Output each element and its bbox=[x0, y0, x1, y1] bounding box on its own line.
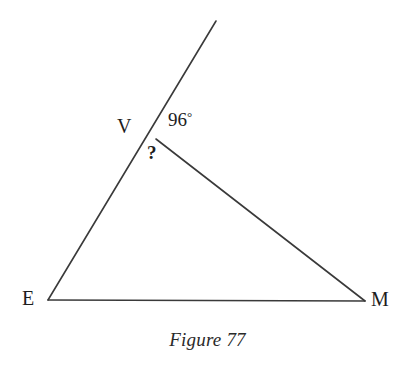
vertex-label-m: M bbox=[371, 289, 389, 309]
vertex-label-v: V bbox=[117, 116, 131, 136]
segment-em bbox=[48, 300, 365, 301]
angle-unknown-marker: ? bbox=[147, 143, 157, 162]
figure-container: V E M 96° ? Figure 77 bbox=[0, 0, 415, 366]
geometry-drawing bbox=[0, 0, 415, 366]
degree-symbol-icon: ° bbox=[187, 109, 192, 124]
vertex-label-e: E bbox=[22, 288, 34, 308]
figure-caption: Figure 77 bbox=[0, 330, 415, 351]
ray-e-through-v bbox=[48, 21, 216, 300]
segment-vm bbox=[156, 139, 365, 301]
angle-measure-value: 96 bbox=[168, 109, 187, 130]
angle-measure-96-degrees: 96° bbox=[168, 110, 192, 129]
